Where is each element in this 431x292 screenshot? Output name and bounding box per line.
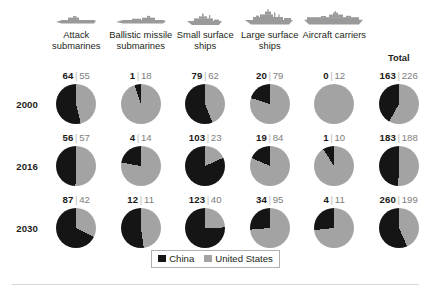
pie-chart bbox=[56, 146, 96, 186]
row-label-2000: 2000 bbox=[0, 82, 44, 126]
us-value: 11 bbox=[335, 194, 345, 205]
pie-cell bbox=[367, 82, 431, 126]
us-value: 42 bbox=[79, 194, 90, 205]
us-value: 14 bbox=[141, 132, 152, 143]
pie-chart bbox=[185, 84, 225, 124]
comparison-grid: Attack submarines Ballistic missile subm… bbox=[0, 0, 431, 272]
pie-cell bbox=[173, 82, 238, 126]
value-pair: 260|199 bbox=[367, 188, 431, 206]
us-value: 84 bbox=[273, 132, 284, 143]
pie-chart bbox=[314, 146, 354, 186]
value-pair: 4|11 bbox=[302, 188, 367, 206]
row-label-2030: 2030 bbox=[0, 206, 44, 250]
us-value: 18 bbox=[141, 70, 152, 81]
pie-cell bbox=[302, 144, 367, 188]
column-header-aircraft-carriers: Aircraft carriers bbox=[302, 28, 367, 64]
us-value: 11 bbox=[144, 194, 154, 205]
column-header-small-surface-ships: Small surface ships bbox=[173, 28, 238, 64]
row-label-2016: 2016 bbox=[0, 144, 44, 188]
value-pair: 79|62 bbox=[173, 64, 238, 82]
pie-cell bbox=[302, 82, 367, 126]
value-pair: 1|10 bbox=[302, 126, 367, 144]
pie-chart bbox=[250, 208, 290, 248]
legend-item-united-states: United States bbox=[204, 253, 273, 264]
value-row-spacer bbox=[0, 188, 44, 206]
pie-chart bbox=[185, 146, 225, 186]
pie-chart bbox=[379, 208, 419, 248]
pie-chart bbox=[250, 146, 290, 186]
value-pair: 1|18 bbox=[109, 64, 174, 82]
value-pair: 56|57 bbox=[44, 126, 109, 144]
china-value: 64 bbox=[62, 70, 73, 81]
china-value: 12 bbox=[127, 194, 138, 205]
china-value: 123 bbox=[189, 194, 205, 205]
value-pair: 34|95 bbox=[238, 188, 303, 206]
column-header-attack-submarines: Attack submarines bbox=[44, 28, 109, 64]
value-pair: 163|226 bbox=[367, 64, 431, 82]
us-value: 23 bbox=[211, 132, 222, 143]
china-value: 19 bbox=[256, 132, 267, 143]
pie-cell bbox=[238, 206, 303, 250]
column-icon-cell bbox=[44, 0, 109, 28]
pie-cell bbox=[173, 206, 238, 250]
us-value: 95 bbox=[273, 194, 284, 205]
pie-chart bbox=[121, 146, 161, 186]
us-value: 188 bbox=[402, 132, 418, 143]
pie-cell bbox=[109, 82, 174, 126]
pie-chart bbox=[185, 208, 225, 248]
legend-box: China United States bbox=[151, 250, 280, 268]
value-pair: 87|42 bbox=[44, 188, 109, 206]
value-row-spacer bbox=[0, 126, 44, 144]
pie-chart bbox=[314, 208, 354, 248]
pie-cell bbox=[238, 82, 303, 126]
grid-corner-spacer bbox=[0, 0, 44, 28]
total-icon-spacer bbox=[367, 0, 431, 28]
naval-fleet-comparison-infographic: Attack submarines Ballistic missile subm… bbox=[0, 0, 431, 292]
value-pair: 64|55 bbox=[44, 64, 109, 82]
column-icon-cell bbox=[238, 0, 303, 28]
pie-chart bbox=[250, 84, 290, 124]
submarine-icon bbox=[114, 15, 168, 27]
pie-chart bbox=[379, 146, 419, 186]
legend: China United States bbox=[0, 250, 431, 268]
pie-chart bbox=[121, 84, 161, 124]
bottom-divider bbox=[12, 284, 419, 285]
us-value: 62 bbox=[208, 70, 219, 81]
pie-cell bbox=[109, 144, 174, 188]
us-value: 199 bbox=[402, 194, 418, 205]
pie-chart bbox=[121, 208, 161, 248]
china-value: 260 bbox=[380, 194, 396, 205]
aircraft-carrier-icon bbox=[303, 11, 365, 27]
legend-item-china: China bbox=[158, 253, 194, 264]
value-pair: 0|12 bbox=[302, 64, 367, 82]
pie-chart bbox=[56, 208, 96, 248]
china-value: 183 bbox=[380, 132, 396, 143]
china-value: 163 bbox=[380, 70, 396, 81]
pie-chart bbox=[56, 84, 96, 124]
pie-cell bbox=[109, 206, 174, 250]
submarine-icon bbox=[54, 15, 98, 27]
pie-chart bbox=[314, 84, 354, 124]
pie-cell bbox=[44, 144, 109, 188]
pie-cell bbox=[367, 144, 431, 188]
value-pair: 123|40 bbox=[173, 188, 238, 206]
pie-cell bbox=[44, 82, 109, 126]
small-surface-ship-icon bbox=[185, 13, 225, 27]
column-header-total: Total bbox=[367, 28, 431, 64]
value-pair: 4|14 bbox=[109, 126, 174, 144]
us-value: 10 bbox=[334, 132, 345, 143]
china-value: 56 bbox=[62, 132, 73, 143]
china-value: 79 bbox=[191, 70, 202, 81]
us-value: 226 bbox=[402, 70, 418, 81]
pie-cell bbox=[238, 144, 303, 188]
us-value: 57 bbox=[79, 132, 90, 143]
value-pair: 19|84 bbox=[238, 126, 303, 144]
china-value: 20 bbox=[256, 70, 267, 81]
legend-label: United States bbox=[215, 253, 273, 264]
us-value: 40 bbox=[211, 194, 222, 205]
value-pair: 20|79 bbox=[238, 64, 303, 82]
legend-label: China bbox=[169, 253, 194, 264]
legend-swatch bbox=[204, 255, 212, 263]
pie-chart bbox=[379, 84, 419, 124]
china-value: 34 bbox=[256, 194, 267, 205]
